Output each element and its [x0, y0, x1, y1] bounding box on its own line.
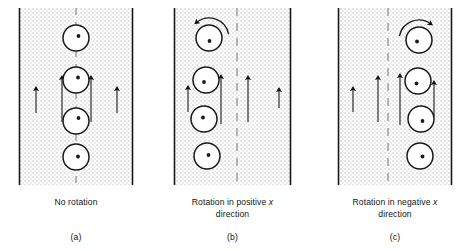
fluid-element-circle-c-1 — [406, 27, 432, 53]
vorticity-dot-a-1 — [77, 34, 81, 38]
panel-a — [19, 8, 133, 185]
caption-line: Rotation in negative x — [320, 197, 470, 209]
fluid-element-circle-a-4 — [63, 144, 89, 170]
fluid-element-circle-a-2 — [63, 67, 89, 93]
panel-caption-a: No rotation(a) — [1, 197, 151, 243]
fluid-element-circle-c-3 — [408, 106, 434, 132]
vorticity-dot-c-3 — [421, 119, 425, 123]
panel-caption-b: Rotation in positive xdirection(b) — [158, 197, 308, 244]
panel-caption-c: Rotation in negative xdirection(c) — [320, 197, 470, 244]
fluid-element-circle-b-2 — [193, 67, 219, 93]
vorticity-dot-a-4 — [76, 155, 80, 159]
vorticity-dot-a-3 — [77, 116, 81, 120]
panel-letter-a: (a) — [1, 232, 151, 244]
caption-line: No rotation — [1, 197, 151, 209]
vorticity-dot-a-2 — [76, 76, 80, 80]
axis-symbol: x — [269, 197, 273, 207]
caption-line: direction — [320, 209, 470, 221]
caption-line: direction — [158, 209, 308, 221]
fluid-element-circle-c-4 — [407, 143, 433, 169]
channel-fill-c — [338, 8, 452, 185]
axis-symbol: x — [433, 197, 437, 207]
panel-c — [338, 8, 452, 185]
vorticity-dot-b-3 — [201, 116, 205, 120]
fluid-element-circle-c-2 — [405, 68, 431, 94]
fluid-element-circle-a-3 — [63, 108, 89, 134]
fluid-element-circle-a-1 — [63, 25, 89, 51]
channel-fill-b — [174, 8, 291, 185]
fluid-element-circle-b-1 — [196, 25, 222, 51]
vorticity-dot-c-4 — [421, 155, 425, 159]
vorticity-dot-c-1 — [415, 40, 419, 44]
panel-b — [174, 8, 291, 185]
vorticity-dot-c-2 — [415, 82, 419, 86]
caption-line: Rotation in positive x — [158, 197, 308, 209]
vorticity-dot-b-1 — [208, 39, 212, 43]
vorticity-dot-b-2 — [202, 80, 206, 84]
panel-letter-c: (c) — [320, 232, 470, 244]
panel-letter-b: (b) — [158, 232, 308, 244]
vorticity-dot-b-4 — [207, 153, 211, 157]
